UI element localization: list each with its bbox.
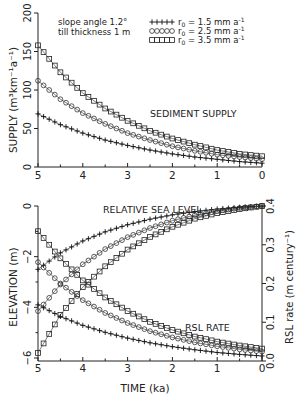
plus-marker <box>58 122 63 127</box>
plus-marker <box>220 350 225 355</box>
plus-marker <box>63 247 68 252</box>
figure: 050100150200543210 slope angle 1.2° till… <box>0 0 299 398</box>
plus-marker <box>97 328 102 333</box>
plus-marker <box>215 350 220 355</box>
plus-marker <box>226 351 231 356</box>
plus-marker <box>119 224 124 229</box>
plus-marker <box>103 137 108 142</box>
y-tick-label: 150 <box>22 42 33 61</box>
rsl-rate-title: RSL RATE <box>185 322 230 333</box>
plus-marker <box>153 341 158 346</box>
plus-marker <box>125 222 130 227</box>
plus-marker <box>181 153 186 158</box>
x-axis-label: TIME (ka) <box>119 382 169 394</box>
y-tick-label: 200 <box>22 3 33 22</box>
x-tick-label: 2 <box>169 169 176 181</box>
legend-item-square: r0 = 3.5 mm a-1 <box>150 34 245 46</box>
elevation-series-square <box>36 204 265 356</box>
plus-marker <box>125 336 130 341</box>
plus-marker <box>108 139 113 144</box>
upper-annotation-slope: slope angle 1.2° <box>58 17 127 27</box>
plus-marker <box>192 347 197 352</box>
upper-series <box>35 43 264 166</box>
plus-marker <box>69 318 74 323</box>
plus-marker <box>63 316 68 321</box>
plus-marker <box>147 147 152 152</box>
legend-plus-icon <box>154 19 159 24</box>
legend-plus-icon <box>169 19 174 24</box>
plus-marker <box>35 111 40 116</box>
plus-marker <box>52 119 57 124</box>
plus-marker <box>147 340 152 345</box>
lower-axes <box>34 206 266 361</box>
plus-marker <box>142 218 147 223</box>
plus-marker <box>103 330 108 335</box>
plus-marker <box>47 308 52 313</box>
plus-marker <box>175 345 180 350</box>
y-tick-label: −6 <box>22 351 33 366</box>
lower-y-axis-label: ELEVATION (m) <box>7 247 19 326</box>
y-tick-label: 0 <box>22 203 33 209</box>
plus-marker <box>187 346 192 351</box>
plus-marker <box>75 321 80 326</box>
plus-marker <box>159 214 164 219</box>
plus-marker <box>86 132 91 137</box>
plus-marker <box>164 150 169 155</box>
legend-square-icon <box>155 38 160 43</box>
x-tick-label: 4 <box>79 169 86 181</box>
plus-marker <box>75 241 80 246</box>
lower-series <box>35 203 264 358</box>
upper-annotation-till: till thickness 1 m <box>58 27 130 37</box>
legend-circle-icon <box>150 29 155 34</box>
plus-marker <box>119 334 124 339</box>
plus-marker <box>136 145 141 150</box>
legend-square-icon <box>160 38 165 43</box>
legend-circle-icon <box>155 29 160 34</box>
plus-marker <box>153 148 158 153</box>
plus-marker <box>114 226 119 231</box>
plus-marker <box>248 353 253 358</box>
plus-marker <box>142 146 147 151</box>
x-tick-label: 1 <box>214 169 221 181</box>
series-square <box>36 43 265 159</box>
plus-marker <box>35 302 40 307</box>
plus-marker <box>97 232 102 237</box>
plus-marker <box>108 331 113 336</box>
plus-marker <box>187 154 192 159</box>
legend-plus-icon <box>159 19 164 24</box>
plus-marker <box>52 311 57 316</box>
plus-marker <box>209 349 214 354</box>
plus-marker <box>69 244 74 249</box>
plus-marker <box>136 338 141 343</box>
legend-square-icon <box>165 38 170 43</box>
plus-marker <box>198 155 203 160</box>
y-tick-label: −4 <box>22 300 33 315</box>
plus-marker <box>181 346 186 351</box>
plus-marker <box>114 140 119 145</box>
x-tick-label: 2 <box>169 362 176 374</box>
plus-marker <box>170 344 175 349</box>
plus-marker <box>86 236 91 241</box>
plus-marker <box>198 348 203 353</box>
plus-marker <box>47 117 52 122</box>
plus-marker <box>91 234 96 239</box>
y-tick-label: 0 <box>22 164 33 170</box>
right-y-tick-label: 0.2 <box>265 276 276 292</box>
plus-marker <box>175 152 180 157</box>
x-tick-label: 3 <box>124 169 131 181</box>
plus-marker <box>131 221 136 226</box>
plus-marker <box>203 349 208 354</box>
lower-chart-title: RELATIVE SEA LEVEL <box>103 204 202 215</box>
legend-circle-icon <box>170 29 175 34</box>
y-tick-label: −2 <box>22 249 33 264</box>
lower-chart: 0−2−4−60.00.10.20.30.4543210 RELATIVE SE… <box>7 198 295 394</box>
plus-marker <box>237 352 242 357</box>
upper-chart-title: SEDIMENT SUPPLY <box>150 108 237 119</box>
plus-marker <box>80 323 85 328</box>
plus-marker <box>80 131 85 136</box>
plus-marker <box>47 259 52 264</box>
right-y-tick-label: 0.0 <box>265 353 276 369</box>
plus-marker <box>164 343 169 348</box>
plus-marker <box>131 144 136 149</box>
legend-plus-icon <box>149 19 154 24</box>
